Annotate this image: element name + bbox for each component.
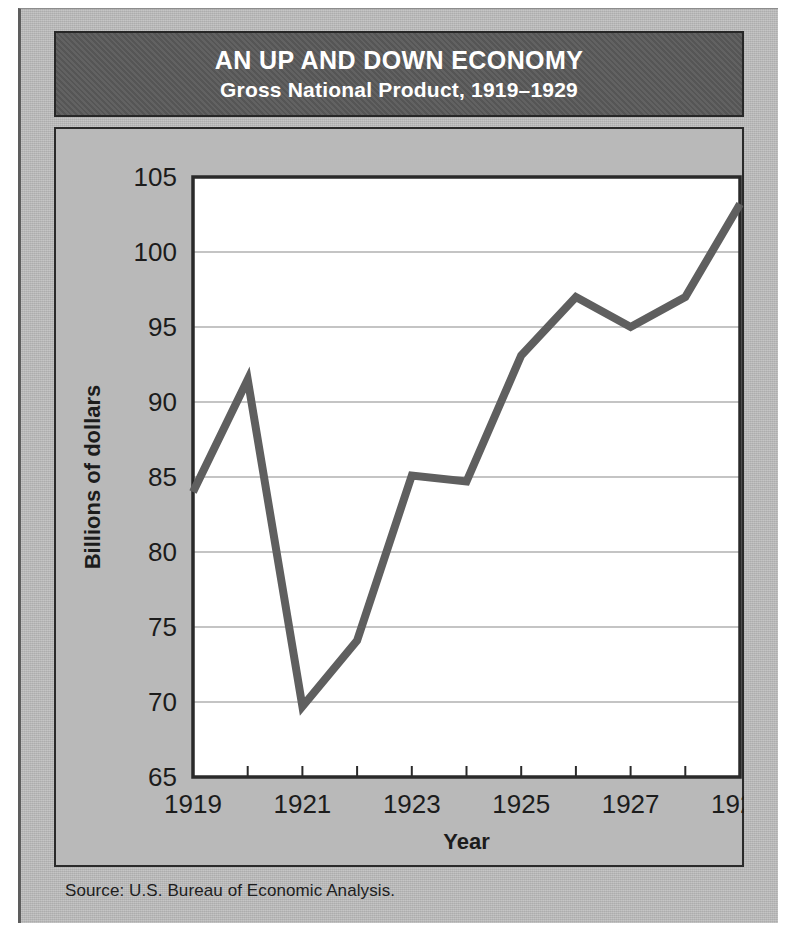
ytick-label: 90 [148, 387, 177, 417]
ytick-label: 100 [134, 237, 177, 267]
xtick-label: 1923 [383, 789, 441, 819]
ytick-label: 65 [148, 762, 177, 792]
ytick-label: 105 [134, 162, 177, 192]
xtick-label: 1921 [273, 789, 331, 819]
xtick-label: 1925 [492, 789, 550, 819]
chart-subtitle: Gross National Product, 1919–1929 [220, 77, 578, 102]
ytick-label: 80 [148, 537, 177, 567]
chart-plot: 6570758085909510010519191921192319251927… [54, 127, 744, 867]
x-axis-title: Year [443, 829, 490, 854]
ytick-label: 95 [148, 312, 177, 342]
figure-panel: AN UP AND DOWN ECONOMY Gross National Pr… [18, 8, 778, 923]
xtick-label: 1927 [602, 789, 660, 819]
source-note: Source: U.S. Bureau of Economic Analysis… [65, 881, 395, 901]
chart-title: AN UP AND DOWN ECONOMY [215, 46, 584, 74]
ytick-label: 75 [148, 612, 177, 642]
xtick-label: 1929 [711, 789, 744, 819]
y-axis-title: Billions of dollars [80, 385, 105, 570]
ytick-label: 85 [148, 462, 177, 492]
chart-title-banner: AN UP AND DOWN ECONOMY Gross National Pr… [54, 31, 744, 117]
xtick-label: 1919 [164, 789, 222, 819]
ytick-label: 70 [148, 687, 177, 717]
